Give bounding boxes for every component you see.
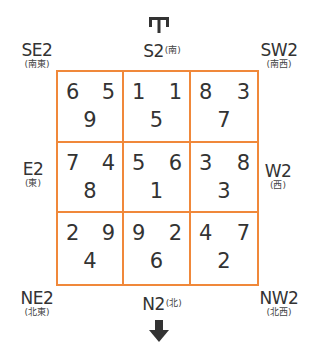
cell-north: 9 2 6 [124, 213, 191, 284]
label-northeast-sub: (北東) [14, 308, 60, 317]
cell-top-right-number: 5 [102, 82, 115, 103]
label-south-main: S2 [143, 41, 164, 61]
cell-top-right-number: 2 [169, 223, 182, 244]
label-north: N2(北) [132, 296, 192, 313]
label-west: W2 (西) [260, 163, 296, 190]
cell-top-right-number: 7 [237, 223, 250, 244]
cell-top-right-number: 3 [237, 82, 250, 103]
label-southeast: SE2 (南東) [14, 42, 60, 69]
cell-bottom-center-number: 1 [124, 181, 189, 202]
cell-top-right-number: 1 [169, 82, 182, 103]
label-west-main: W2 [260, 163, 296, 180]
label-south-sub: (南) [165, 45, 181, 55]
label-southeast-sub: (南東) [14, 60, 60, 69]
cell-top-left-number: 4 [199, 223, 212, 244]
label-northwest-sub: (北西) [254, 308, 304, 317]
cell-top-left-number: 6 [66, 82, 79, 103]
label-southeast-main: SE2 [14, 42, 60, 59]
cell-bottom-center-number: 3 [191, 181, 257, 202]
cell-top-left-number: 3 [199, 153, 212, 174]
cell-bottom-center-number: 6 [124, 251, 189, 272]
label-northeast: NE2 (北東) [14, 290, 60, 317]
cell-bottom-center-number: 8 [58, 181, 122, 202]
cell-northeast: 2 9 4 [58, 213, 124, 284]
label-southwest-sub: (南西) [254, 60, 304, 69]
cell-bottom-center-number: 4 [58, 251, 122, 272]
reversed-arrow-up-icon [146, 10, 172, 36]
label-north-main: N2 [142, 294, 165, 314]
cell-top-left-number: 2 [66, 223, 79, 244]
cell-south: 1 1 5 [124, 72, 191, 143]
label-southwest-main: SW2 [254, 42, 304, 59]
cell-top-right-number: 8 [237, 153, 250, 174]
arrow-down-icon [147, 318, 171, 344]
cell-top-left-number: 5 [132, 153, 145, 174]
cell-top-left-number: 1 [132, 82, 145, 103]
label-east-sub: (東) [12, 179, 54, 188]
label-east-main: E2 [12, 161, 54, 178]
cell-bottom-center-number: 5 [124, 110, 189, 131]
flying-star-grid: 6 5 9 1 1 5 8 3 7 7 4 8 5 6 1 3 8 3 2 9 … [56, 70, 259, 286]
cell-top-right-number: 4 [102, 153, 115, 174]
label-east: E2 (東) [12, 161, 54, 188]
cell-top-left-number: 9 [132, 223, 145, 244]
cell-center: 5 6 1 [124, 143, 191, 213]
cell-top-left-number: 7 [66, 153, 79, 174]
cell-top-right-number: 6 [169, 153, 182, 174]
cell-southwest: 8 3 7 [191, 72, 257, 143]
label-northwest-main: NW2 [254, 290, 304, 307]
cell-west: 3 8 3 [191, 143, 257, 213]
label-west-sub: (西) [260, 181, 296, 190]
label-south: S2(南) [132, 43, 192, 60]
cell-east: 7 4 8 [58, 143, 124, 213]
cell-northwest: 4 7 2 [191, 213, 257, 284]
label-northeast-main: NE2 [14, 290, 60, 307]
label-north-sub: (北) [166, 298, 182, 308]
cell-bottom-center-number: 9 [58, 110, 122, 131]
cell-bottom-center-number: 7 [191, 110, 257, 131]
label-southwest: SW2 (南西) [254, 42, 304, 69]
cell-southeast: 6 5 9 [58, 72, 124, 143]
cell-top-right-number: 9 [102, 223, 115, 244]
label-northwest: NW2 (北西) [254, 290, 304, 317]
cell-top-left-number: 8 [199, 82, 212, 103]
cell-bottom-center-number: 2 [191, 251, 257, 272]
